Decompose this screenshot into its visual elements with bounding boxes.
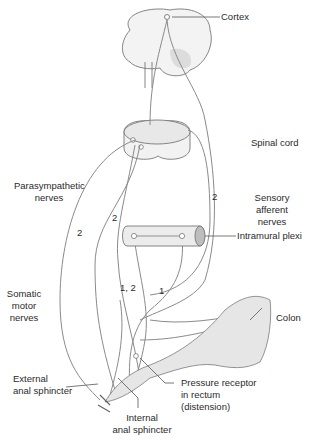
label-sensory-afferent-nerves: Sensory afferent nerves [250, 192, 294, 228]
label-external-anal-sphincter: External anal sphincter [13, 373, 72, 397]
pathway-number-left: 2 [77, 227, 82, 238]
pathway-number-parasympathetic: 2 [112, 212, 117, 223]
label-colon: Colon [276, 312, 301, 324]
label-pressure-receptor: Pressure receptor in rectum (distension) [181, 377, 257, 413]
pathway-number-one-two: 1, 2 [120, 282, 136, 293]
intramural-plexi-illustration [123, 226, 206, 246]
label-spinal-cord: Spinal cord [251, 137, 299, 149]
label-cortex: Cortex [221, 11, 249, 23]
pathway-number-sensory: 2 [212, 191, 217, 202]
label-somatic-motor-nerves: Somatic motor nerves [6, 288, 42, 324]
label-parasympathetic-nerves: Parasympathetic nerves [14, 180, 84, 204]
label-intramural-plexi: Intramural plexi [237, 230, 302, 242]
label-internal-anal-sphincter: Internal anal sphincter [110, 412, 174, 436]
pathway-number-one: 1 [159, 285, 164, 296]
